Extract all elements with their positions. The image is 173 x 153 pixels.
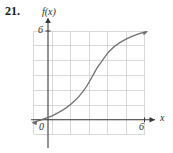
tick-marks — [46, 31, 145, 122]
origin-label: 0 — [39, 121, 44, 132]
function-curve — [32, 31, 149, 125]
y-axis — [45, 18, 51, 149]
x-axis — [31, 117, 155, 123]
x-axis-label: x — [160, 112, 164, 123]
y-axis-label: f(x) — [42, 6, 56, 17]
graph-svg — [0, 0, 173, 153]
x-axis-tick-6: 6 — [139, 121, 144, 132]
y-axis-tick-6: 6 — [38, 24, 43, 35]
